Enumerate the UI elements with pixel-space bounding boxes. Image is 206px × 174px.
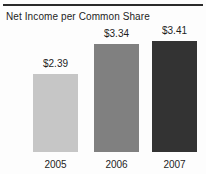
chart-figure: Net Income per Common Share $2.39 2005 $… [0,0,206,174]
bar-group-2005: $2.39 2005 [33,0,78,174]
bar-group-2006: $3.34 2006 [94,0,139,174]
bar-category-label: 2007 [152,159,197,171]
plot-area: $2.39 2005 $3.34 2006 $3.41 2007 [0,0,206,174]
bar-value-label: $3.41 [152,25,197,37]
bar-2006[interactable] [94,44,139,152]
bar-2007[interactable] [152,41,197,152]
bar-value-label: $2.39 [33,58,78,70]
bar-value-label: $3.34 [94,28,139,40]
bar-group-2007: $3.41 2007 [152,0,197,174]
bar-category-label: 2006 [94,159,139,171]
bar-category-label: 2005 [33,159,78,171]
bar-2005[interactable] [33,74,78,152]
